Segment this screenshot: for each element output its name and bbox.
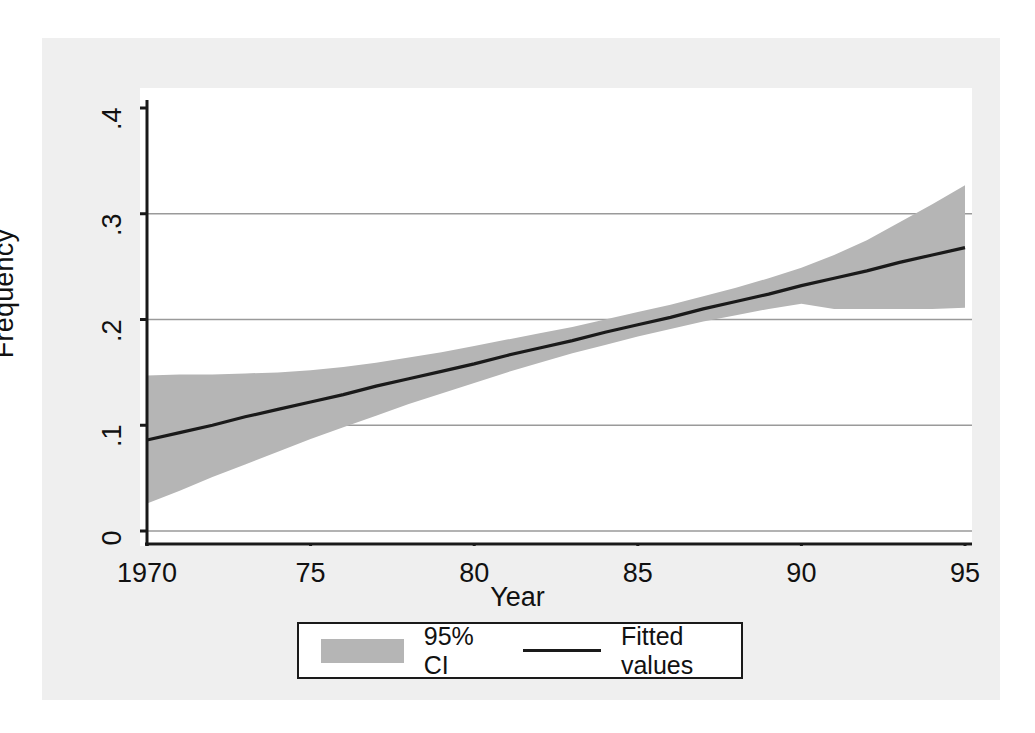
legend-label-ci: 95% CI: [424, 622, 493, 680]
axis-line-group: [145, 100, 972, 546]
y-tick-label: .1: [97, 425, 128, 473]
legend-entry-ci: 95% CI: [299, 622, 493, 680]
y-axis-title: Frequency: [0, 84, 20, 504]
legend-label-fitted: Fitted values: [621, 622, 741, 680]
chart-canvas: [140, 88, 972, 546]
y-tick-label: .2: [97, 319, 128, 367]
plot-area: [140, 88, 972, 546]
y-tick-label: .3: [97, 213, 128, 261]
fitted-values-line: [147, 248, 965, 440]
legend-entry-fitted: Fitted values: [493, 622, 741, 680]
fitted-line-swatch-icon: [523, 649, 601, 652]
ci-band-swatch-icon: [321, 639, 404, 663]
gridline-group: [147, 108, 972, 531]
chart-legend: 95% CI Fitted values: [297, 622, 743, 679]
y-tick-label: .4: [97, 108, 128, 156]
chart-figure: Frequency 0.1.2.3.4 19707580859095 Year …: [0, 0, 1035, 733]
x-axis-title: Year: [0, 582, 1035, 613]
